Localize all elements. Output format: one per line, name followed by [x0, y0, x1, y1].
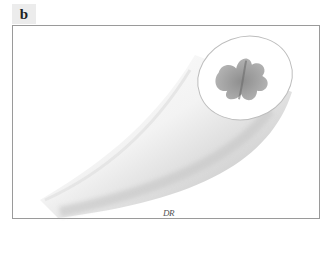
artist-signature: DR — [163, 208, 174, 218]
caption-remnant — [0, 244, 328, 255]
